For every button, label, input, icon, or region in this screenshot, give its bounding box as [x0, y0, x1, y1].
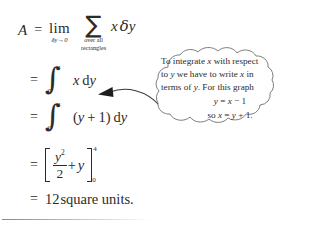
callout-text-segment: we have to write — [175, 69, 241, 79]
summation-operand: xδy — [111, 19, 135, 34]
eq2-prefix: so — [207, 110, 217, 120]
callout-text-segment: terms of — [161, 82, 194, 92]
equation-line-antiderivative-bracket: = y2 2 + y 4 0 — [30, 148, 99, 182]
summation-subscript: over all rectangles — [81, 36, 106, 52]
bottom-divider — [2, 219, 152, 220]
result-units: square units. — [60, 192, 133, 207]
plus-sign: + — [68, 158, 76, 173]
differential-dy: dy — [82, 72, 96, 88]
operand-y: y — [129, 18, 136, 34]
callout-text-block: To integrate x with respect to y we have… — [161, 55, 299, 122]
worked-example-page: A = lim δy→0 ∑ over all rectangles xδy =… — [0, 0, 312, 228]
limit-operator: lim δy→0 — [49, 21, 70, 44]
callout-equation-1: y = x − 1 — [161, 95, 299, 108]
integral-operator: ∫ 4 0 — [45, 105, 64, 129]
callout-text-segment: in — [244, 69, 253, 79]
equals-sign: = — [30, 73, 38, 87]
integral-operator: ∫ 4 0 — [45, 68, 64, 92]
bracket-contents: y2 2 + y — [50, 148, 87, 182]
delta-symbol: δ — [120, 17, 129, 35]
fraction-denominator: 2 — [56, 167, 63, 181]
eq1-rhs-constant: − 1 — [232, 96, 246, 106]
eq1-equals: = — [218, 96, 228, 106]
callout-body-line-1: To integrate x with respect — [161, 55, 299, 68]
sigma-icon: ∑ — [85, 15, 101, 35]
summation-subscript-line-2: rectangles — [81, 44, 106, 51]
eq2-rhs-constant: + 1. — [236, 110, 253, 120]
arrow-head-icon — [98, 87, 114, 97]
limit-subscript: δy→0 — [52, 37, 68, 44]
summation-operator: ∑ over all rectangles — [81, 15, 106, 52]
equals-sign: = — [30, 158, 38, 172]
callout-text-segment: To integrate — [161, 56, 207, 66]
cloud-callout-bubble: To integrate x with respect to y we have… — [148, 40, 312, 142]
fraction-numerator: y2 — [53, 149, 67, 164]
callout-body-line-3: terms of y. For this graph — [161, 81, 299, 94]
equals-sign: = — [30, 110, 38, 124]
eq2-equals: = — [222, 110, 232, 120]
bracket-evaluation-limits: 4 0 — [92, 148, 99, 182]
equation-line-area-definition: A = lim δy→0 ∑ over all rectangles xδy — [18, 12, 135, 49]
numerator-exponent: 2 — [61, 148, 65, 157]
differential-d: d — [82, 72, 89, 88]
square-bracket-group: y2 2 + y 4 0 — [45, 148, 99, 182]
integrand-expression: xdy — [73, 73, 96, 88]
summation-subscript-line-1: over all — [84, 36, 103, 43]
operand-x: x — [111, 18, 118, 34]
bracket-upper-limit: 4 — [93, 146, 97, 153]
integrand-y: y — [78, 109, 84, 125]
integral-upper-limit: 4 — [57, 65, 61, 72]
callout-equation-2: so x = y + 1. — [161, 109, 299, 122]
fraction-y-squared-over-2: y2 2 — [53, 149, 67, 181]
callout-body-line-2: to y we have to write x in — [161, 68, 299, 81]
integral-lower-limit: 0 — [48, 125, 52, 132]
equation-line-result: = 12 square units. — [30, 192, 134, 207]
integral-lower-limit: 0 — [48, 88, 52, 95]
second-term-y: y — [78, 158, 84, 173]
callout-text-segment: with respect — [211, 56, 258, 66]
integrand-x: x — [73, 72, 79, 88]
callout-text-segment: . For this graph — [198, 82, 254, 92]
integral-upper-limit: 4 — [57, 102, 61, 109]
variable-A: A — [18, 23, 27, 38]
bracket-lower-limit: 0 — [92, 177, 96, 184]
limit-label: lim — [49, 21, 70, 36]
equals-sign: = — [30, 192, 38, 206]
equation-line-integral-x: = ∫ 4 0 xdy — [30, 68, 96, 92]
equals-sign: = — [34, 23, 42, 37]
plus-sign: + — [87, 109, 95, 125]
result-value: 12 — [45, 192, 60, 207]
